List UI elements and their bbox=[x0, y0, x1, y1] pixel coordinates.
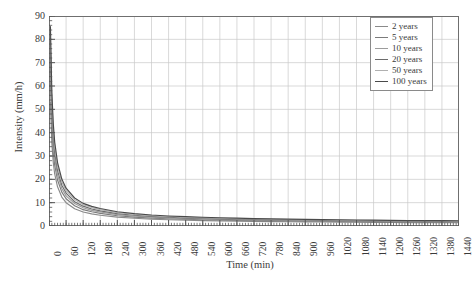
x-tick-label: 780 bbox=[275, 242, 285, 256]
x-tick-label: 420 bbox=[173, 242, 183, 256]
x-tick-label: 1440 bbox=[463, 237, 472, 256]
x-tick-label: 1260 bbox=[412, 237, 422, 256]
figure-container: Intensity (mm/h) 0102030405060708090 060… bbox=[0, 0, 472, 289]
x-tick-label: 60 bbox=[70, 247, 80, 257]
figure-caption bbox=[26, 281, 446, 289]
legend: 2 years5 years10 years20 years50 years10… bbox=[370, 17, 433, 91]
x-tick-label: 600 bbox=[224, 242, 234, 256]
x-tick-label: 1080 bbox=[361, 237, 371, 256]
x-tick-label: 0 bbox=[53, 251, 63, 256]
y-axis-tick-labels: 0102030405060708090 bbox=[23, 0, 45, 289]
x-tick-label: 240 bbox=[121, 242, 131, 256]
y-tick-label: 80 bbox=[25, 34, 45, 44]
legend-label: 5 years bbox=[392, 32, 418, 43]
legend-line-swatch bbox=[375, 37, 388, 38]
y-tick-label: 20 bbox=[25, 174, 45, 184]
x-axis-title: Time (min) bbox=[40, 258, 460, 271]
legend-line-swatch bbox=[375, 48, 388, 49]
legend-item: 50 years bbox=[375, 65, 427, 76]
x-tick-label: 840 bbox=[292, 242, 302, 256]
y-tick-label: 70 bbox=[25, 58, 45, 68]
x-tick-label: 1380 bbox=[446, 237, 456, 256]
y-tick-label: 0 bbox=[25, 221, 45, 231]
x-tick-label: 720 bbox=[258, 242, 268, 256]
x-axis-tick-labels: 0601201802403003604204805406006607207808… bbox=[49, 228, 459, 258]
x-tick-label: 120 bbox=[87, 242, 97, 256]
legend-item: 10 years bbox=[375, 43, 427, 54]
x-tick-label: 1140 bbox=[378, 237, 388, 256]
y-tick-label: 40 bbox=[25, 128, 45, 138]
x-tick-label: 960 bbox=[326, 242, 336, 256]
legend-item: 5 years bbox=[375, 32, 427, 43]
legend-item: 20 years bbox=[375, 54, 427, 65]
legend-line-swatch bbox=[375, 81, 388, 82]
x-tick-label: 660 bbox=[241, 242, 251, 256]
legend-line-swatch bbox=[375, 26, 388, 27]
x-tick-label: 1200 bbox=[395, 237, 405, 256]
x-tick-label: 360 bbox=[156, 242, 166, 256]
y-tick-label: 30 bbox=[25, 151, 45, 161]
legend-label: 50 years bbox=[392, 65, 422, 76]
y-tick-label: 90 bbox=[25, 11, 45, 21]
x-tick-label: 480 bbox=[190, 242, 200, 256]
legend-line-swatch bbox=[375, 70, 388, 71]
x-tick-label: 300 bbox=[138, 242, 148, 256]
legend-label: 10 years bbox=[392, 43, 422, 54]
legend-label: 20 years bbox=[392, 54, 422, 65]
y-tick-label: 60 bbox=[25, 81, 45, 91]
x-tick-label: 1320 bbox=[429, 237, 439, 256]
legend-label: 100 years bbox=[392, 76, 427, 87]
legend-item: 100 years bbox=[375, 76, 427, 87]
y-tick-label: 10 bbox=[25, 198, 45, 208]
x-tick-label: 180 bbox=[104, 242, 114, 256]
legend-item: 2 years bbox=[375, 21, 427, 32]
x-tick-label: 1020 bbox=[343, 237, 353, 256]
x-tick-label: 540 bbox=[207, 242, 217, 256]
y-tick-label: 50 bbox=[25, 104, 45, 114]
legend-line-swatch bbox=[375, 59, 388, 60]
legend-label: 2 years bbox=[392, 21, 418, 32]
x-tick-label: 900 bbox=[309, 242, 319, 256]
